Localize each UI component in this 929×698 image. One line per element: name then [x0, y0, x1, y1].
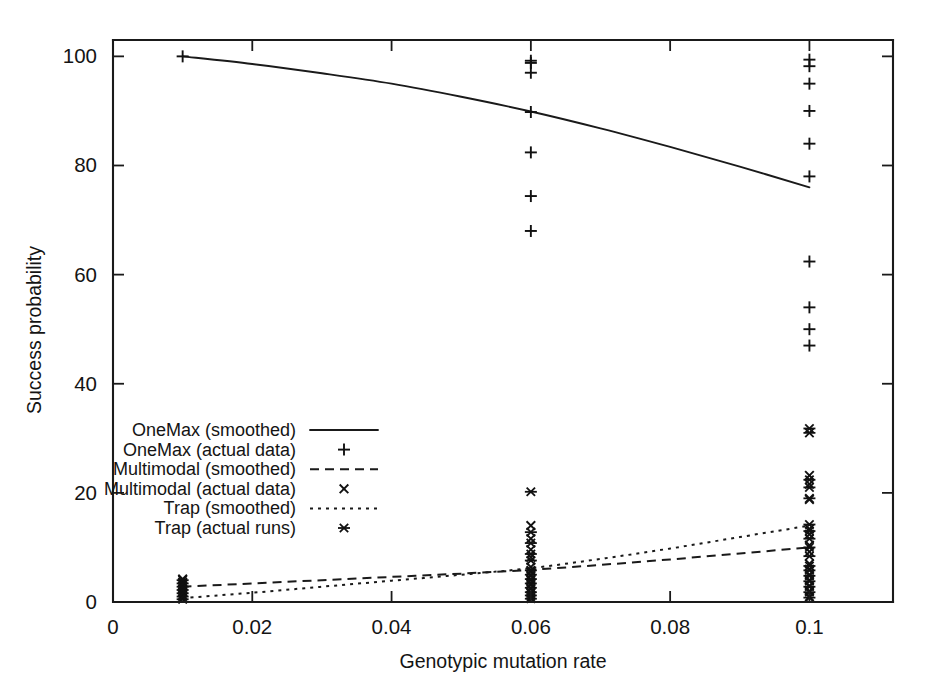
- marker-star: [803, 424, 815, 432]
- marker-plus: [803, 301, 815, 313]
- y-tick-label-20: 20: [74, 481, 97, 504]
- marker-plus: [803, 78, 815, 90]
- marker-plus: [803, 105, 815, 117]
- y-tick-label-80: 80: [74, 153, 97, 176]
- marker-star: [803, 476, 815, 484]
- marker-plus: [803, 170, 815, 182]
- x-tick-label-0: 0: [107, 615, 118, 638]
- marker-plus: [803, 256, 815, 268]
- legend-label-2: Multimodal (smoothed): [113, 459, 296, 479]
- y-tick-label-0: 0: [86, 590, 97, 613]
- marker-star: [525, 528, 537, 536]
- y-tick-label-60: 60: [74, 263, 97, 286]
- scatter-plot: 02040608010000.020.040.060.080.1 OneMax …: [0, 0, 929, 698]
- legend-label-0: OneMax (smoothed): [132, 420, 296, 440]
- y-tick-label-100: 100: [63, 44, 97, 67]
- marker-star: [338, 524, 350, 532]
- x-tick-label-0.02: 0.02: [232, 615, 272, 638]
- legend-label-5: Trap (actual runs): [155, 518, 296, 538]
- x-tick-label-0.08: 0.08: [650, 615, 690, 638]
- marker-plus: [803, 340, 815, 352]
- marker-cross: [805, 471, 814, 480]
- marker-plus: [338, 444, 350, 456]
- marker-plus: [525, 106, 537, 118]
- marker-star: [803, 494, 815, 502]
- marker-plus: [525, 146, 537, 158]
- chart-legend: OneMax (smoothed)OneMax (actual data)Mul…: [104, 420, 378, 538]
- tick-labels-layer: 02040608010000.020.040.060.080.1: [63, 44, 824, 638]
- marker-star: [525, 539, 537, 547]
- marker-star: [525, 488, 537, 496]
- marker-star: [803, 577, 815, 585]
- legend-label-4: Trap (smoothed): [164, 498, 296, 518]
- y-tick-label-40: 40: [74, 372, 97, 395]
- marker-star: [803, 566, 815, 574]
- marker-star: [803, 520, 815, 528]
- marker-star: [803, 572, 815, 580]
- marker-plus: [803, 138, 815, 150]
- marker-star: [803, 429, 815, 437]
- y-axis-title: Success probability: [23, 246, 45, 414]
- marker-star: [803, 535, 815, 543]
- marker-plus: [525, 225, 537, 237]
- x-axis-title: Genotypic mutation rate: [399, 650, 606, 672]
- marker-star: [803, 583, 815, 591]
- marker-star: [803, 552, 815, 560]
- marker-plus: [525, 190, 537, 202]
- curve-onemax-smoothed: [183, 56, 810, 187]
- x-tick-label-0.1: 0.1: [795, 615, 824, 638]
- marker-plus: [803, 60, 815, 72]
- curve-multimodal-smoothed: [183, 547, 810, 586]
- chart-figure: 02040608010000.020.040.060.080.1 OneMax …: [0, 0, 929, 698]
- legend-label-3: Multimodal (actual data): [104, 479, 296, 499]
- points-onemax-actual-data: [177, 50, 816, 351]
- marker-plus: [525, 67, 537, 79]
- x-tick-label-0.04: 0.04: [372, 615, 412, 638]
- marker-cross: [340, 484, 349, 493]
- x-tick-label-0.06: 0.06: [511, 615, 551, 638]
- marker-plus: [177, 50, 189, 62]
- legend-label-1: OneMax (actual data): [123, 440, 296, 460]
- marker-plus: [803, 323, 815, 335]
